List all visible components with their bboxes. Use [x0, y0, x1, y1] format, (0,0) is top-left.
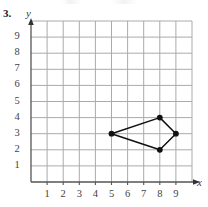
- x-tick-label: 4: [88, 188, 102, 199]
- grid-lines: [31, 21, 192, 182]
- y-tick-label: 1: [10, 159, 24, 170]
- x-tick-label: 1: [40, 188, 54, 199]
- x-tick-label: 2: [56, 188, 70, 199]
- y-tick-label: 4: [10, 111, 24, 122]
- x-axis-label: x: [197, 176, 202, 188]
- y-axis-label: y: [26, 7, 31, 19]
- vertex-point: [173, 131, 179, 137]
- y-tick-label: 9: [10, 30, 24, 41]
- x-tick-label: 7: [137, 188, 151, 199]
- vertex-point: [109, 131, 115, 137]
- coordinate-grid-plot: [0, 0, 208, 207]
- y-tick-label: 3: [10, 127, 24, 138]
- worksheet-figure: 3. 123456789123456789 y x: [0, 0, 208, 207]
- y-tick-label: 2: [10, 143, 24, 154]
- y-tick-label: 7: [10, 62, 24, 73]
- y-tick-label: 5: [10, 95, 24, 106]
- x-tick-label: 6: [121, 188, 135, 199]
- x-tick-label: 9: [169, 188, 183, 199]
- x-tick-label: 5: [105, 188, 119, 199]
- y-tick-label: 6: [10, 78, 24, 89]
- x-tick-label: 8: [153, 188, 167, 199]
- vertex-point: [157, 147, 163, 153]
- vertex-point: [157, 115, 163, 121]
- y-tick-label: 8: [10, 46, 24, 57]
- x-tick-label: 3: [72, 188, 86, 199]
